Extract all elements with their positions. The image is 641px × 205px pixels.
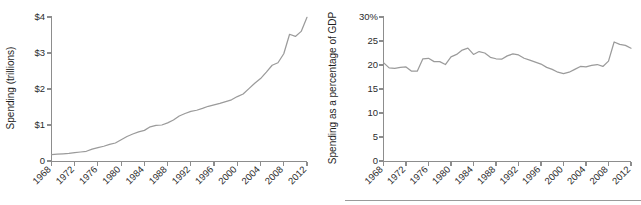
x-tick-label-1988: 1988 bbox=[146, 164, 169, 187]
y-tick-label-10: 10 bbox=[367, 107, 378, 118]
gdp-share-trend-line bbox=[384, 42, 632, 74]
spending-pct-gdp-chart: Spending as a percentage of GDP 0 5 10 1… bbox=[320, 0, 641, 205]
x-tick-label-2000: 2000 bbox=[216, 164, 239, 187]
x-tick-label-1968: 1968 bbox=[30, 164, 53, 187]
x-tick-label-1984: 1984 bbox=[452, 164, 475, 187]
y-axis-title: Spending as a percentage of GDP bbox=[327, 12, 338, 165]
x-tick-label-1972: 1972 bbox=[53, 164, 76, 187]
y-tick-label-30: 30% bbox=[359, 11, 379, 22]
x-tick-label-2012: 2012 bbox=[286, 164, 309, 187]
x-tick-label-1980: 1980 bbox=[430, 164, 453, 187]
spending-pct-gdp-svg: Spending as a percentage of GDP 0 5 10 1… bbox=[320, 0, 641, 205]
y-tick-label-1: $1 bbox=[34, 119, 45, 130]
x-tick-label-2004: 2004 bbox=[239, 164, 262, 187]
y-tick-label-15: 15 bbox=[367, 83, 378, 94]
x-tick-label-1976: 1976 bbox=[77, 164, 100, 187]
x-tick-label-1996: 1996 bbox=[520, 164, 543, 187]
y-tick-label-20: 20 bbox=[367, 59, 378, 70]
y-tick-label-4: $4 bbox=[34, 11, 45, 22]
total-spending-chart: Spending (trillions) 0 $1 $2 $3 $4 bbox=[0, 0, 320, 205]
x-tick-label-1988: 1988 bbox=[475, 164, 498, 187]
y-axis-title: Spending (trillions) bbox=[5, 47, 16, 130]
x-tick-label-2012: 2012 bbox=[610, 164, 633, 187]
two-panel-spending-figure: Spending (trillions) 0 $1 $2 $3 $4 bbox=[0, 0, 641, 205]
x-tick-label-1972: 1972 bbox=[385, 164, 408, 187]
spending-trend-line bbox=[52, 17, 308, 154]
x-tick-label-1976: 1976 bbox=[407, 164, 430, 187]
footer-divider bbox=[345, 200, 641, 201]
total-spending-svg: Spending (trillions) 0 $1 $2 $3 $4 bbox=[0, 0, 320, 205]
x-tick-label-2008: 2008 bbox=[587, 164, 610, 187]
x-tick-label-1992: 1992 bbox=[169, 164, 192, 187]
y-tick-label-5: 5 bbox=[373, 131, 378, 142]
y-tick-label-2: $2 bbox=[34, 83, 45, 94]
y-tick-label-25: 25 bbox=[367, 35, 378, 46]
x-tick-label-1996: 1996 bbox=[193, 164, 216, 187]
x-tick-label-2008: 2008 bbox=[262, 164, 285, 187]
x-tick-label-1968: 1968 bbox=[362, 164, 385, 187]
x-tick-label-2004: 2004 bbox=[565, 164, 588, 187]
x-tick-label-1980: 1980 bbox=[100, 164, 123, 187]
x-tick-label-1992: 1992 bbox=[497, 164, 520, 187]
x-tick-label-1984: 1984 bbox=[123, 164, 146, 187]
y-tick-label-3: $3 bbox=[34, 47, 45, 58]
x-tick-label-2000: 2000 bbox=[542, 164, 565, 187]
